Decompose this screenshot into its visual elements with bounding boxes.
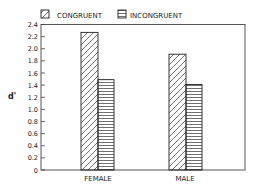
legend-label-congruent: CONGRUENT bbox=[57, 12, 103, 20]
y-tick-label: 2.0 bbox=[28, 45, 38, 53]
y-axis-label: d' bbox=[8, 92, 16, 101]
y-tick-label: 1.8 bbox=[28, 57, 38, 65]
incongruent-swatch-icon bbox=[118, 10, 126, 18]
bars bbox=[81, 32, 202, 170]
y-tick-label: 1.2 bbox=[28, 94, 38, 102]
y-tick-label: 0.4 bbox=[28, 142, 38, 150]
y-tick-label: 0.6 bbox=[28, 130, 38, 138]
bar-chart: CONGRUENT INCONGRUENT 00.20.40.60.81.01.… bbox=[0, 0, 256, 192]
y-tick-label: 2.4 bbox=[28, 21, 38, 29]
bar-congruent-female bbox=[81, 32, 98, 170]
plot-frame bbox=[41, 25, 245, 171]
x-label-female: FEMALE bbox=[84, 175, 112, 183]
y-tick-label: 2.2 bbox=[28, 33, 38, 41]
legend-item-congruent: CONGRUENT bbox=[41, 10, 103, 20]
bar-incongruent-male bbox=[186, 85, 202, 170]
y-tick-label: 1.6 bbox=[28, 70, 38, 78]
y-tick-label: 0.8 bbox=[28, 118, 38, 126]
x-label-male: MALE bbox=[175, 175, 194, 183]
legend-item-incongruent: INCONGRUENT bbox=[118, 10, 183, 20]
y-axis: 00.20.40.60.81.01.21.41.61.82.02.22.4 bbox=[28, 21, 45, 175]
bar-congruent-male bbox=[169, 54, 186, 170]
y-tick-label: 0.2 bbox=[28, 154, 38, 162]
bar-incongruent-female bbox=[98, 80, 114, 170]
y-tick-label: 0 bbox=[34, 167, 38, 175]
congruent-swatch-icon bbox=[41, 10, 49, 18]
y-tick-label: 1.4 bbox=[28, 82, 38, 90]
legend-label-incongruent: INCONGRUENT bbox=[130, 12, 183, 20]
y-tick-label: 1.0 bbox=[28, 106, 38, 114]
legend: CONGRUENT INCONGRUENT bbox=[41, 10, 183, 20]
